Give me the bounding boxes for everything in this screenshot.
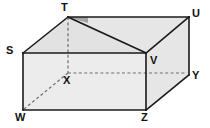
vertex-label-x: X (63, 75, 70, 86)
vertex-label-u: U (192, 8, 200, 19)
vertex-label-w: W (15, 112, 25, 123)
geometry-figure: TUSVYXWZ (0, 0, 210, 128)
vertex-label-y: Y (192, 70, 199, 81)
front-face (23, 53, 146, 110)
geometry-svg (0, 0, 210, 128)
vertex-label-z: Z (141, 112, 148, 123)
vertex-label-s: S (6, 45, 13, 56)
vertex-label-v: V (150, 55, 157, 66)
vertex-label-t: T (61, 2, 68, 13)
